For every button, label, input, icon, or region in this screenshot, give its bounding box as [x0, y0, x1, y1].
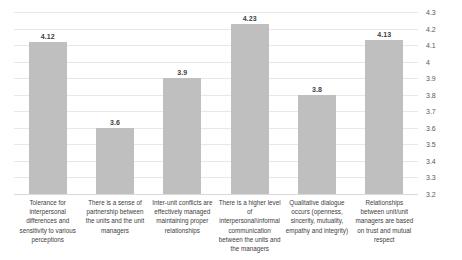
category-label: There is a higher level of interpersonal… [216, 198, 283, 253]
bar[interactable] [365, 40, 403, 194]
category-label: Relationships between unit/unit managers… [351, 198, 418, 244]
bar-value-label: 3.9 [149, 69, 216, 76]
bar[interactable] [298, 95, 336, 194]
y-axis-tick-label: 4.1 [426, 42, 436, 49]
y-axis-tick-label: 4.2 [426, 25, 436, 32]
y-axis: 4.34.24.143.93.83.73.63.53.43.33.2 [420, 12, 460, 194]
bar-slot: 3.6 [81, 12, 148, 194]
bar-chart: 4.123.63.94.233.84.13 4.34.24.143.93.83.… [0, 0, 462, 260]
category-axis: Tolerance for interpersonal differences … [14, 198, 418, 253]
y-axis-tick-label: 4.3 [426, 9, 436, 16]
bar-value-label: 4.23 [216, 15, 283, 22]
category-label: Qualitative dialogue occurs (openness, s… [283, 198, 350, 235]
y-axis-tick-label: 3.4 [426, 157, 436, 164]
y-axis-tick-label: 3.9 [426, 75, 436, 82]
y-axis-tick-label: 3.8 [426, 91, 436, 98]
y-axis-tick-label: 3.3 [426, 174, 436, 181]
category-label: Inter-unit conflicts are effectively man… [149, 198, 216, 235]
category-label: There is a sense of partnership between … [81, 198, 148, 235]
gridline [14, 194, 418, 195]
bar-value-label: 4.12 [14, 33, 81, 40]
bars-layer: 4.123.63.94.233.84.13 [14, 12, 418, 194]
bar[interactable] [163, 78, 201, 194]
category-label: Tolerance for interpersonal differences … [14, 198, 81, 244]
bar-value-label: 3.8 [283, 86, 350, 93]
bar-slot: 4.13 [351, 12, 418, 194]
y-axis-tick-label: 4 [426, 58, 430, 65]
bar-slot: 4.23 [216, 12, 283, 194]
bar-value-label: 3.6 [81, 119, 148, 126]
y-axis-tick-label: 3.7 [426, 108, 436, 115]
bar-slot: 3.8 [283, 12, 350, 194]
y-axis-tick-label: 3.2 [426, 191, 436, 198]
y-axis-tick-label: 3.5 [426, 141, 436, 148]
bar-slot: 3.9 [149, 12, 216, 194]
bar-value-label: 4.13 [351, 31, 418, 38]
bar[interactable] [29, 42, 67, 194]
bar[interactable] [231, 24, 269, 194]
bar-slot: 4.12 [14, 12, 81, 194]
bar[interactable] [96, 128, 134, 194]
plot-area: 4.123.63.94.233.84.13 [14, 12, 418, 194]
y-axis-tick-label: 3.6 [426, 124, 436, 131]
